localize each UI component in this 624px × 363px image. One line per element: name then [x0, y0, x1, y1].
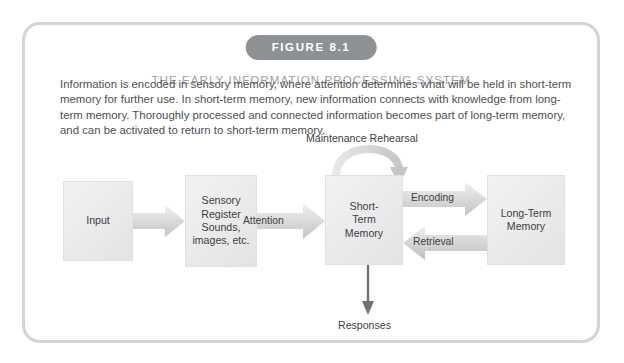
box-input: Input [63, 181, 133, 261]
arrow-label-attention: Attention [243, 215, 284, 226]
figure-caption: Information is encoded in sensory memory… [60, 77, 572, 138]
figure-badge: FIGURE 8.1 [246, 35, 377, 60]
box-short-term-memory-label: Short- Term Memory [345, 200, 383, 240]
box-sensory-register-label: Sensory Register Sounds, images, etc. [192, 194, 249, 248]
arrow-input-to-sensory [133, 205, 185, 237]
annotation-responses: Responses [338, 319, 391, 331]
figure-frame: FIGURE 8.1 THE EARLY INFORMATION PROCESS… [22, 22, 600, 343]
box-short-term-memory: Short- Term Memory [325, 175, 403, 265]
arrow-label-retrieval: Retrieval [413, 236, 454, 247]
box-input-label: Input [86, 214, 110, 227]
box-long-term-memory-label: Long-Term Memory [501, 207, 552, 234]
arrow-label-encoding: Encoding [411, 192, 454, 203]
annotation-maintenance-rehearsal: Maintenance Rehearsal [306, 132, 418, 144]
arrow-responses [362, 265, 374, 315]
box-long-term-memory: Long-Term Memory [487, 175, 565, 265]
